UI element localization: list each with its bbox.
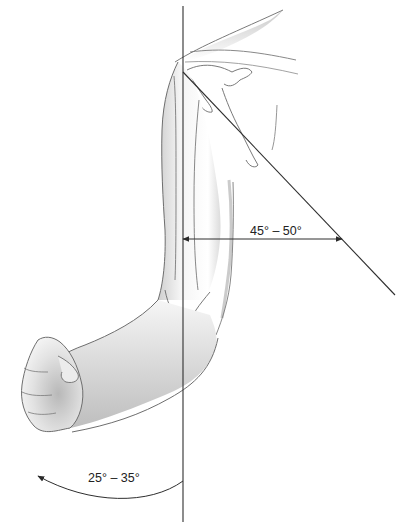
upper-arm (158, 62, 233, 335)
rotation-angle-label: 25° – 35° (88, 471, 140, 485)
anatomical-figure (0, 0, 409, 531)
abduction-angle-label: 45° – 50° (250, 224, 302, 238)
